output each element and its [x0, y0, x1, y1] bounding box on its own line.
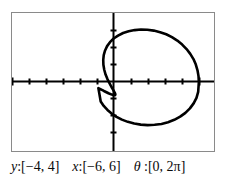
theta-range-label: θ :[0, 2π]: [134, 160, 186, 174]
x-range-value: :[−6, 6]: [79, 159, 121, 174]
graph-screenshot: y:[−4, 4] x:[−6, 6] θ :[0, 2π]: [0, 0, 226, 184]
theta-variable: θ: [134, 159, 141, 174]
x-range-label: x:[−6, 6]: [72, 160, 120, 174]
window-settings-caption: y:[−4, 4] x:[−6, 6] θ :[0, 2π]: [11, 155, 215, 179]
theta-range-value: :[0, 2π]: [141, 159, 186, 174]
plot-frame: [11, 12, 215, 152]
plot-canvas: [12, 13, 214, 151]
y-range-label: y:[−4, 4]: [11, 160, 59, 174]
y-range-value: :[−4, 4]: [17, 159, 59, 174]
